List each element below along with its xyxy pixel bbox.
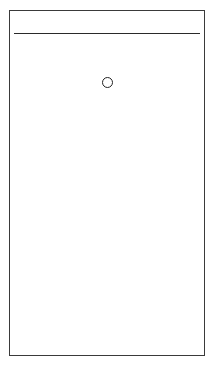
overlap-icon: [102, 77, 113, 88]
condition-e-overlaps-t: [10, 75, 204, 91]
universe-divider: [14, 33, 200, 34]
drs-box: [9, 10, 205, 356]
